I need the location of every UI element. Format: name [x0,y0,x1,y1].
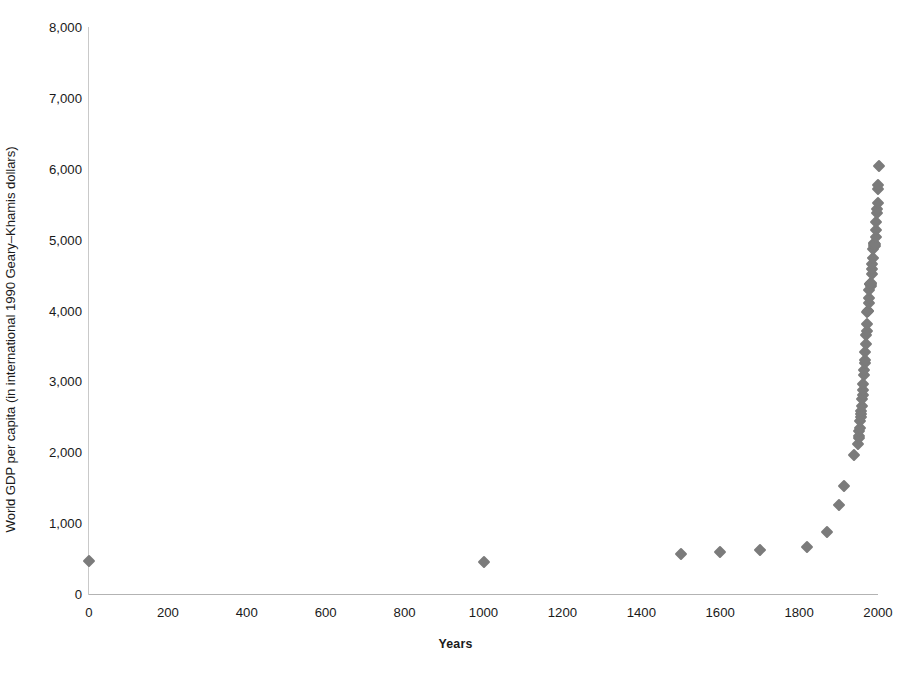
data-point [753,544,766,557]
gdp-per-capita-scatter-chart: World GDP per capita (in international 1… [0,0,911,679]
x-axis-tick-label: 600 [315,605,337,620]
y-axis-tick-label: 4,000 [28,303,82,318]
y-axis-tick-label: 0 [28,587,82,602]
data-point [674,548,687,561]
x-axis-tick-label: 1200 [548,605,577,620]
y-axis-tick-label: 2,000 [28,445,82,460]
y-axis-tick-label-group: 01,0002,0003,0004,0005,0006,0007,0008,00… [28,0,82,679]
data-point [477,556,490,569]
data-point [801,540,814,553]
y-axis-tick-label: 5,000 [28,232,82,247]
data-point [848,449,861,462]
x-axis-line [89,594,878,595]
y-axis-tick-label: 7,000 [28,90,82,105]
x-axis-tick-label: 2000 [863,605,892,620]
x-axis-tick-label: 1600 [706,605,735,620]
x-axis-tick-label: 0 [85,605,92,620]
x-axis-tick-label: 800 [394,605,416,620]
data-point [714,545,727,558]
x-axis-tick-label: 1400 [627,605,656,620]
data-point [873,160,886,173]
x-axis-tick-label: 1800 [784,605,813,620]
x-axis-tick-label: 1000 [469,605,498,620]
y-axis-tick-label: 6,000 [28,161,82,176]
x-axis-tick-label: 200 [157,605,179,620]
data-point [832,498,845,511]
x-axis-tick-label-group: 0200400600800100012001400160018002000 [0,605,911,629]
data-point [820,526,833,539]
plot-area [89,27,878,594]
y-axis-title: World GDP per capita (in international 1… [0,0,30,679]
y-axis-tick-label: 8,000 [28,20,82,35]
data-point [837,480,850,493]
y-axis-tick-label: 3,000 [28,374,82,389]
data-point [83,555,96,568]
x-axis-title: Years [0,637,911,651]
y-axis-tick-label: 1,000 [28,516,82,531]
x-axis-tick-label: 400 [236,605,258,620]
